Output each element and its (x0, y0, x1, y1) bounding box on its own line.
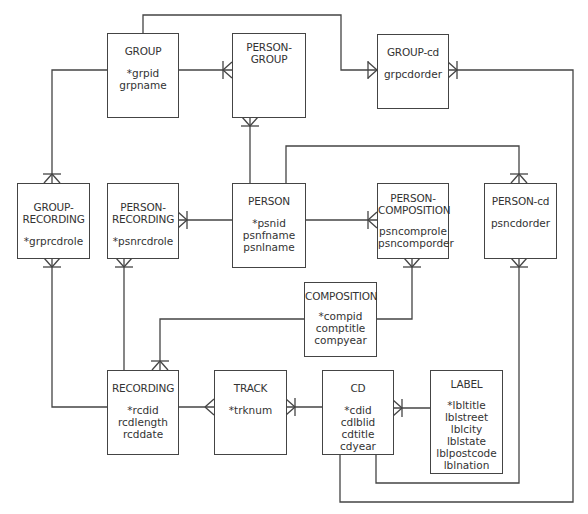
entity-person-cd: PERSON-cd psncdorder (484, 183, 557, 259)
attribute: cdyear (323, 440, 393, 452)
entity-group: GROUP *grpid grpname (107, 33, 179, 118)
entity-attributes: *grprcdrole (18, 235, 89, 247)
entity-attributes: *cdid cdlblid cdtitle cdyear (323, 404, 393, 452)
attribute: lblpostcode (431, 447, 502, 459)
entity-title: GROUP-cd (378, 46, 448, 58)
attribute: psnlname (233, 241, 305, 253)
attribute: lblnation (431, 459, 502, 471)
entity-title: PERSON (233, 195, 305, 207)
entity-group-recording: GROUP- RECORDING *grprcdrole (17, 183, 90, 259)
line-group-grouprecording (52, 70, 107, 183)
attribute: rcddate (108, 428, 178, 440)
attribute: *compid (305, 310, 376, 322)
entity-group-cd: GROUP-cd grpcdorder (377, 34, 449, 109)
attribute: psncdorder (485, 217, 556, 229)
entity-title: PERSON- COMPOSITION (378, 192, 448, 216)
attribute: *trknum (215, 404, 286, 416)
attribute: psncomprole (378, 225, 448, 237)
attribute: *rcdid (108, 404, 178, 416)
attribute: cdtitle (323, 428, 393, 440)
attribute: compyear (305, 334, 376, 346)
entity-person-recording: PERSON- RECORDING *psnrcdrole (107, 183, 179, 259)
attribute: psncomporder (378, 237, 448, 249)
entity-attributes: *psnrcdrole (108, 235, 178, 247)
entity-attributes: *compid comptitle compyear (305, 310, 376, 346)
attribute: psnfname (233, 229, 305, 241)
entity-title: PERSON- GROUP (233, 41, 305, 65)
entity-composition: COMPOSITION *compid comptitle compyear (304, 282, 377, 357)
entity-attributes: *grpid grpname (108, 67, 178, 91)
entity-title: LABEL (431, 378, 502, 390)
attribute: lblstate (431, 435, 502, 447)
entity-title: RECORDING (108, 382, 178, 394)
attribute: rcdlength (108, 416, 178, 428)
entity-attributes: psncdorder (485, 217, 556, 229)
attribute: lblstreet (431, 411, 502, 423)
entity-title: TRACK (215, 382, 286, 394)
entity-recording: RECORDING *rcdid rcdlength rcddate (107, 370, 179, 455)
attribute: grpcdorder (378, 68, 448, 80)
entity-attributes: *trknum (215, 404, 286, 416)
entity-cd: CD *cdid cdlblid cdtitle cdyear (322, 370, 394, 455)
entity-title: PERSON- RECORDING (108, 201, 178, 225)
attribute: lblcity (431, 423, 502, 435)
entity-person: PERSON *psnid psnfname psnlname (232, 183, 306, 268)
attribute: *grpid (108, 67, 178, 79)
attribute: *cdid (323, 404, 393, 416)
entity-title: COMPOSITION (305, 290, 376, 302)
attribute: *psnid (233, 217, 305, 229)
line-composition-recording (160, 319, 304, 370)
entity-person-group: PERSON- GROUP (232, 33, 306, 118)
entity-title: GROUP- RECORDING (18, 201, 89, 225)
line-person-personcd (286, 146, 519, 183)
attribute: comptitle (305, 322, 376, 334)
entity-title: PERSON-cd (485, 195, 556, 207)
entity-attributes: psncomprole psncomporder (378, 225, 448, 249)
attribute: *lbltitle (431, 399, 502, 411)
entity-title: GROUP (108, 45, 178, 57)
entity-attributes: *psnid psnfname psnlname (233, 217, 305, 253)
attribute: cdlblid (323, 416, 393, 428)
entity-track: TRACK *trknum (214, 370, 287, 455)
entity-title: CD (323, 382, 393, 394)
entity-label: LABEL *lbltitle lblstreet lblcity lblsta… (430, 370, 503, 474)
attribute: grpname (108, 79, 178, 91)
entity-attributes: *rcdid rcdlength rcddate (108, 404, 178, 440)
entity-attributes: *lbltitle lblstreet lblcity lblstate lbl… (431, 399, 502, 471)
entity-attributes: grpcdorder (378, 68, 448, 80)
er-diagram: GROUP *grpid grpname PERSON- GROUP GROUP… (0, 0, 588, 514)
line-recording-grouprecording (52, 258, 107, 407)
entity-person-composition: PERSON- COMPOSITION psncomprole psncompo… (377, 183, 449, 259)
attribute: *grprcdrole (18, 235, 89, 247)
attribute: *psnrcdrole (108, 235, 178, 247)
